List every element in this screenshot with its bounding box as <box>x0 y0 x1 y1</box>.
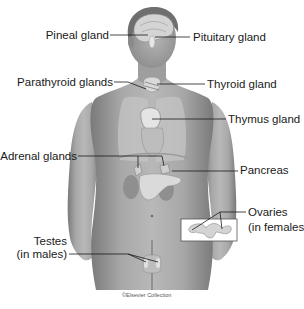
label-adrenal-glands: Adrenal glands <box>0 150 77 163</box>
testes-organ <box>143 255 161 273</box>
thyroid-organ <box>144 77 161 92</box>
label-testes-note: (in males) <box>10 248 67 261</box>
label-pancreas: Pancreas <box>240 164 289 177</box>
ovaries-inset <box>181 219 237 241</box>
endocrine-diagram: Pineal gland Pituitary gland Parathyroid… <box>0 0 304 309</box>
label-pituitary-gland: Pituitary gland <box>193 31 266 44</box>
label-pineal-gland: Pineal gland <box>30 29 109 42</box>
label-parathyroid-glands: Parathyroid glands <box>8 76 113 89</box>
thymus-heart <box>141 108 164 156</box>
label-ovaries: Ovaries <box>248 206 288 219</box>
label-thymus-gland: Thymus gland <box>228 113 300 126</box>
label-testes: Testes <box>10 235 67 248</box>
label-ovaries-note: (in females) <box>248 221 304 234</box>
label-thyroid-gland: Thyroid gland <box>207 78 277 91</box>
copyright-credit: ©Elsevier Collection <box>122 292 171 298</box>
